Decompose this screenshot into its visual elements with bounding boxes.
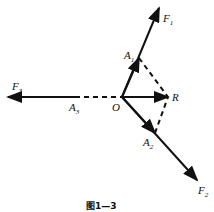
- label-f3: F3: [11, 80, 23, 95]
- label-r: R: [171, 91, 179, 103]
- label-a3: A3: [68, 101, 80, 116]
- component-a2-vector: [122, 97, 155, 133]
- label-a1: A1: [123, 49, 134, 64]
- dashed-a1-r: [139, 58, 168, 97]
- label-o: O: [112, 101, 120, 113]
- force-diagram: F1 F2 F3 A1 A2 A3 O R 图1—3: [0, 0, 214, 212]
- figure-caption: 图1—3: [86, 201, 117, 211]
- label-a2: A2: [142, 136, 154, 151]
- label-f2: F2: [197, 184, 209, 199]
- label-f1: F1: [162, 12, 173, 27]
- dashed-a2-r: [155, 97, 168, 133]
